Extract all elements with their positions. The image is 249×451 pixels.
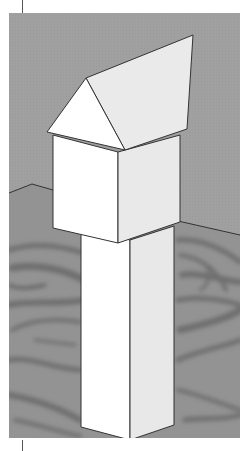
column[interactable] [81, 226, 174, 438]
crop-mark-top [22, 0, 23, 13]
crop-mark-bottom [22, 440, 23, 451]
scene-canvas[interactable] [9, 13, 240, 438]
column-right-face[interactable] [130, 226, 174, 438]
box-body[interactable] [53, 135, 180, 243]
model-viewport[interactable] [9, 13, 240, 438]
box-left-face[interactable] [53, 135, 118, 243]
column-left-face[interactable] [81, 228, 130, 438]
